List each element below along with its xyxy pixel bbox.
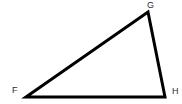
vertex-label-h: H xyxy=(172,87,179,96)
vertex-label-g: G xyxy=(147,1,154,10)
vertex-label-f: F xyxy=(12,86,18,95)
triangle-figure-canvas: F G H xyxy=(0,0,182,104)
triangle-outline-fgh xyxy=(26,12,165,97)
triangle-shape xyxy=(0,0,182,104)
